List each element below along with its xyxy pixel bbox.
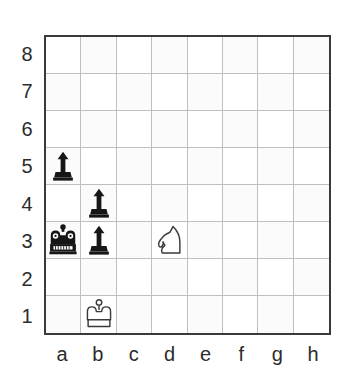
board-square-h3[interactable] <box>294 222 329 259</box>
board-square-b8[interactable] <box>81 37 116 74</box>
board-square-f6[interactable] <box>223 111 258 148</box>
file-label-h: h <box>295 339 331 369</box>
board-square-g1[interactable] <box>258 296 293 333</box>
board-square-e4[interactable] <box>188 185 223 222</box>
board-square-f5[interactable] <box>223 148 258 185</box>
board-square-e7[interactable] <box>188 74 223 111</box>
board-square-e1[interactable] <box>188 296 223 333</box>
board-square-d6[interactable] <box>152 111 187 148</box>
rank-label-4: 4 <box>14 185 40 223</box>
board-square-a1[interactable] <box>46 296 81 333</box>
white-knight-icon[interactable] <box>152 223 186 257</box>
black-pawn-icon[interactable] <box>82 186 116 220</box>
board-grid <box>46 37 329 333</box>
chess-diagram: 8 7 6 5 4 3 2 1 <box>0 0 345 387</box>
board-square-b2[interactable] <box>81 259 116 296</box>
black-king-icon[interactable] <box>46 223 80 257</box>
board-square-a4[interactable] <box>46 185 81 222</box>
rank-label-5: 5 <box>14 148 40 186</box>
file-label-a: a <box>44 339 80 369</box>
board-square-h6[interactable] <box>294 111 329 148</box>
board-square-c5[interactable] <box>117 148 152 185</box>
board-square-h7[interactable] <box>294 74 329 111</box>
board-square-g4[interactable] <box>258 185 293 222</box>
board-square-g3[interactable] <box>258 222 293 259</box>
file-label-f: f <box>223 339 259 369</box>
board-square-g7[interactable] <box>258 74 293 111</box>
board-square-d7[interactable] <box>152 74 187 111</box>
board-square-e5[interactable] <box>188 148 223 185</box>
board-square-b7[interactable] <box>81 74 116 111</box>
rank-label-6: 6 <box>14 110 40 148</box>
rank-label-7: 7 <box>14 73 40 111</box>
board-square-b6[interactable] <box>81 111 116 148</box>
board-square-c8[interactable] <box>117 37 152 74</box>
board-square-d3[interactable] <box>152 222 187 259</box>
board-square-a8[interactable] <box>46 37 81 74</box>
board-square-g2[interactable] <box>258 259 293 296</box>
black-pawn-icon[interactable] <box>46 149 80 183</box>
rank-label-column: 8 7 6 5 4 3 2 1 <box>14 35 40 335</box>
board-square-g8[interactable] <box>258 37 293 74</box>
board-square-e6[interactable] <box>188 111 223 148</box>
white-king-icon[interactable] <box>82 298 116 332</box>
board-square-c1[interactable] <box>117 296 152 333</box>
file-label-c: c <box>116 339 152 369</box>
board-square-b4[interactable] <box>81 185 116 222</box>
board-square-g5[interactable] <box>258 148 293 185</box>
board-square-c7[interactable] <box>117 74 152 111</box>
rank-label-2: 2 <box>14 260 40 298</box>
file-label-row: a b c d e f g h <box>44 339 331 369</box>
board-square-a2[interactable] <box>46 259 81 296</box>
board-square-c3[interactable] <box>117 222 152 259</box>
board-square-b1[interactable] <box>81 296 116 333</box>
board-square-e8[interactable] <box>188 37 223 74</box>
rank-label-3: 3 <box>14 223 40 261</box>
board-square-d4[interactable] <box>152 185 187 222</box>
rank-label-1: 1 <box>14 298 40 336</box>
board-square-d1[interactable] <box>152 296 187 333</box>
board-square-f4[interactable] <box>223 185 258 222</box>
black-pawn-icon[interactable] <box>82 223 116 257</box>
board-square-a3[interactable] <box>46 222 81 259</box>
board-square-d8[interactable] <box>152 37 187 74</box>
board-square-f7[interactable] <box>223 74 258 111</box>
board-square-f3[interactable] <box>223 222 258 259</box>
board-square-e3[interactable] <box>188 222 223 259</box>
file-label-g: g <box>259 339 295 369</box>
board-square-d2[interactable] <box>152 259 187 296</box>
board-square-b3[interactable] <box>81 222 116 259</box>
board-square-f2[interactable] <box>223 259 258 296</box>
board-square-c2[interactable] <box>117 259 152 296</box>
board-square-h8[interactable] <box>294 37 329 74</box>
board-square-f1[interactable] <box>223 296 258 333</box>
board-square-h4[interactable] <box>294 185 329 222</box>
board-square-e2[interactable] <box>188 259 223 296</box>
board-square-a6[interactable] <box>46 111 81 148</box>
board-square-g6[interactable] <box>258 111 293 148</box>
file-label-d: d <box>152 339 188 369</box>
board-square-h2[interactable] <box>294 259 329 296</box>
rank-label-8: 8 <box>14 35 40 73</box>
board-square-f8[interactable] <box>223 37 258 74</box>
file-label-b: b <box>80 339 116 369</box>
board-square-h5[interactable] <box>294 148 329 185</box>
board-square-h1[interactable] <box>294 296 329 333</box>
file-label-e: e <box>188 339 224 369</box>
board-square-b5[interactable] <box>81 148 116 185</box>
board-square-a7[interactable] <box>46 74 81 111</box>
board-square-c6[interactable] <box>117 111 152 148</box>
board-square-c4[interactable] <box>117 185 152 222</box>
board-square-d5[interactable] <box>152 148 187 185</box>
board-square-a5[interactable] <box>46 148 81 185</box>
chess-board[interactable] <box>44 35 331 335</box>
